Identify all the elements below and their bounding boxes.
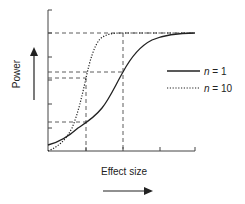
legend-item-n10: n = 10 <box>167 83 233 94</box>
series-n1-line <box>48 33 195 145</box>
y-axis-label: Power <box>11 59 22 88</box>
axes <box>48 10 195 151</box>
series-n10-line <box>48 33 195 151</box>
legend-item-n1: n = 1 <box>167 66 227 77</box>
legend-label-n10: = 10 <box>210 83 233 94</box>
power-effect-chart: n = 1 n = 10 Power Effect size <box>0 0 245 204</box>
svg-text:n = 1: n = 1 <box>204 66 227 77</box>
y-ticks <box>48 10 52 128</box>
x-axis-label: Effect size <box>101 166 147 177</box>
x-arrow-icon <box>103 187 153 195</box>
y-arrow-icon <box>30 47 38 100</box>
x-ticks <box>86 147 195 151</box>
reference-lines <box>48 33 195 151</box>
legend: n = 1 n = 10 <box>167 66 233 94</box>
svg-text:n = 10: n = 10 <box>204 83 233 94</box>
legend-label-n1: = 1 <box>210 66 227 77</box>
